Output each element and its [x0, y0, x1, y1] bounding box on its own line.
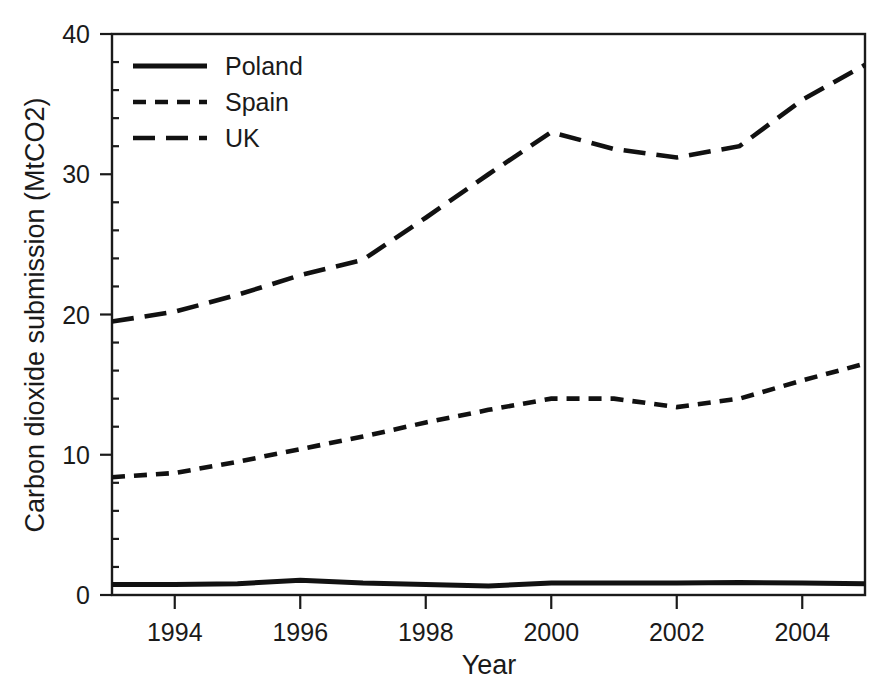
- y-tick-label: 10: [62, 441, 90, 469]
- y-axis-title: Carbon dioxide submission (MtCO2): [20, 97, 50, 532]
- x-tick-label: 2004: [774, 618, 830, 646]
- x-tick-label: 1994: [147, 618, 203, 646]
- legend-label-uk: UK: [225, 124, 260, 152]
- plot-area-frame: [112, 34, 865, 595]
- series-line-poland: [112, 580, 865, 586]
- x-axis-title: Year: [462, 650, 517, 680]
- series-line-spain: [112, 364, 865, 478]
- x-tick-label: 1996: [272, 618, 328, 646]
- chart-legend: PolandSpainUK: [133, 52, 303, 152]
- y-tick-label: 0: [76, 581, 90, 609]
- chart-figure: 010203040 199419961998200020022004 Carbo…: [0, 0, 884, 698]
- legend-label-spain: Spain: [225, 88, 289, 116]
- y-tick-label: 20: [62, 301, 90, 329]
- legend-label-poland: Poland: [225, 52, 303, 80]
- y-axis-ticks: [100, 34, 119, 595]
- line-chart: 010203040 199419961998200020022004 Carbo…: [0, 0, 884, 698]
- x-tick-label: 2000: [523, 618, 579, 646]
- y-tick-label: 40: [62, 20, 90, 48]
- y-tick-label: 30: [62, 160, 90, 188]
- y-axis-tick-labels: 010203040: [62, 20, 90, 609]
- x-tick-label: 2002: [649, 618, 705, 646]
- x-tick-label: 1998: [398, 618, 454, 646]
- x-axis-tick-labels: 199419961998200020022004: [147, 618, 830, 646]
- x-axis-ticks: [175, 595, 803, 609]
